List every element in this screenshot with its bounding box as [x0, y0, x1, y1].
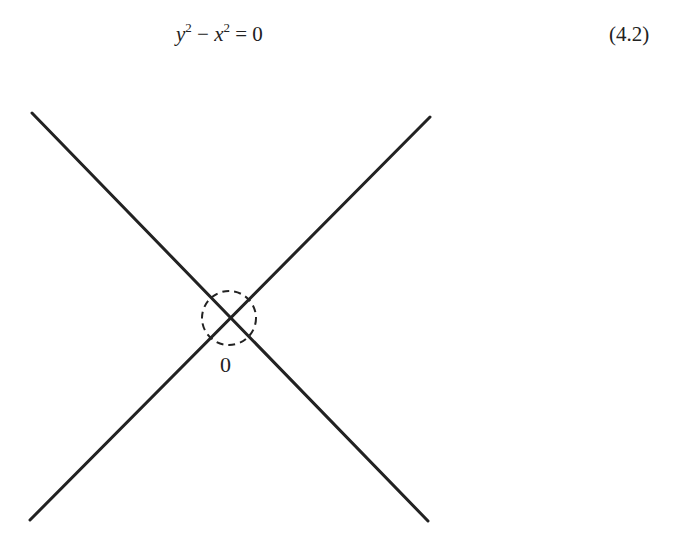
crossing-lines-figure [0, 0, 693, 549]
origin-label: 0 [220, 352, 231, 378]
